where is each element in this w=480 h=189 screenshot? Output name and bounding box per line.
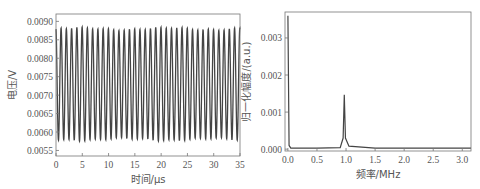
- x-tick-label: 35: [235, 160, 245, 170]
- plot-frame: [285, 12, 471, 151]
- x-axis-label: 频率/MHz: [356, 168, 401, 180]
- y-tick-label: 0.0075: [27, 72, 53, 82]
- x-tick-label: 15: [130, 160, 140, 170]
- data-line: [288, 16, 471, 148]
- x-tick-label: 1.0: [340, 155, 352, 165]
- y-tick-label: 0.002: [261, 71, 283, 81]
- x-tick-label: 30: [209, 160, 219, 170]
- data-line: [56, 27, 240, 141]
- x-tick-label: 5: [80, 160, 85, 170]
- y-axis-label: 归一化幅度/(a.u.): [240, 41, 252, 121]
- x-tick-label: 2.0: [398, 155, 410, 165]
- y-tick-label: 0.0080: [27, 54, 53, 64]
- figure: 051015202530350.00550.00600.00650.00700.…: [0, 0, 480, 189]
- x-tick-label: 10: [104, 160, 114, 170]
- x-tick-label: 0.0: [282, 155, 294, 165]
- x-axis-label: 时间/μs: [131, 173, 166, 185]
- x-tick-label: 0: [54, 160, 59, 170]
- y-tick-label: 0.0065: [27, 109, 53, 119]
- x-tick-label: 3.0: [456, 155, 468, 165]
- y-tick-label: 0.0070: [27, 91, 53, 101]
- y-tick-label: 0.001: [261, 108, 283, 118]
- y-tick-label: 0.0055: [27, 146, 53, 156]
- y-axis-label: 电压/V: [6, 70, 18, 100]
- y-tick-label: 0.003: [261, 33, 283, 43]
- y-tick-label: 0.0085: [27, 35, 53, 45]
- x-tick-label: 2.5: [427, 155, 439, 165]
- x-tick-label: 20: [156, 160, 166, 170]
- x-tick-label: 0.5: [311, 155, 323, 165]
- frequency-spectrum-chart: 0.00.51.01.52.02.53.00.0000.0010.0020.00…: [240, 12, 471, 180]
- y-tick-label: 0.0060: [27, 128, 53, 138]
- x-tick-label: 1.5: [369, 155, 381, 165]
- x-tick-label: 25: [183, 160, 193, 170]
- y-tick-label: 0.000: [261, 145, 283, 155]
- voltage-time-chart: 051015202530350.00550.00600.00650.00700.…: [6, 14, 245, 185]
- y-tick-label: 0.0090: [27, 17, 53, 27]
